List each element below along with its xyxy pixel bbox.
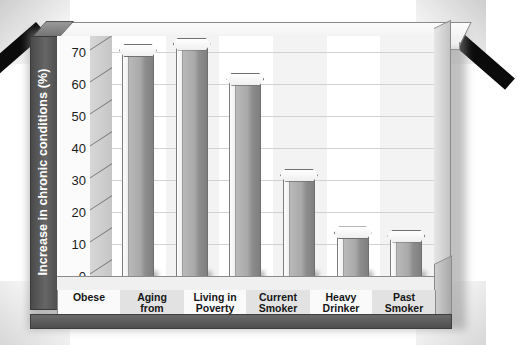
bar-body: [337, 234, 369, 276]
y-axis-tick-column: 010203040506070: [57, 36, 91, 308]
bar-edge: [396, 238, 397, 276]
y-axis-tick-label: 60: [72, 78, 86, 91]
bar[interactable]: [229, 81, 259, 276]
plot-wall-rail: [90, 193, 113, 212]
bar[interactable]: [122, 52, 152, 276]
plot-wall-rail: [90, 65, 113, 84]
category-label-line: Aging: [137, 292, 167, 303]
category-label-line: Living in: [193, 292, 236, 303]
category-label-line: Current: [259, 292, 297, 303]
chart-floor-top: [57, 276, 434, 291]
bar-top-face: [334, 226, 372, 239]
category-label-line: Obese: [73, 292, 105, 303]
bar-body: [229, 81, 261, 276]
bar[interactable]: [176, 46, 206, 276]
y-axis-tick-label: 40: [72, 142, 86, 155]
chart-floor-side: [434, 255, 452, 322]
category-label-line: Smoker: [259, 303, 298, 314]
y-axis-title: Increase in chronic conditions (%): [30, 36, 56, 308]
y-axis-tick-label: 70: [72, 46, 86, 59]
category-label-line: Heavy: [326, 292, 357, 303]
bar-top-face: [226, 73, 264, 86]
plot-wall-rail: [90, 225, 113, 244]
chart-base-plinth: [30, 314, 452, 329]
plot-wall-rail: [90, 129, 113, 148]
bar-slot: [273, 36, 327, 276]
plot-wall-rail: [90, 257, 113, 276]
y-axis-tick-label: 50: [72, 110, 86, 123]
plot-right-wall: [434, 20, 451, 278]
bar-edge: [235, 81, 236, 276]
bar-top-face: [173, 38, 211, 51]
bar-body: [390, 238, 422, 276]
bar[interactable]: [390, 238, 420, 276]
bar-slot: [219, 36, 273, 276]
bar-body: [283, 177, 315, 276]
bar-slot: [327, 36, 381, 276]
bar-slot: [380, 36, 434, 276]
bar-top-face: [387, 230, 425, 243]
bar-top-face: [280, 169, 318, 182]
plot-wall-rail: [90, 97, 113, 116]
bar-top-face: [119, 44, 157, 57]
bar-slot: [166, 36, 220, 276]
y-axis-tick-label: 10: [72, 238, 86, 251]
bar-slot: [112, 36, 166, 276]
bar-edge: [182, 46, 183, 276]
bar-edge: [128, 52, 129, 276]
bar[interactable]: [337, 234, 367, 276]
bar-edge: [343, 234, 344, 276]
bar-body: [122, 52, 154, 276]
category-label-line: Poverty: [196, 303, 235, 314]
plot-left-wall: [90, 36, 113, 308]
category-label-line: Drinker: [323, 303, 360, 314]
plot-wall-rail: [90, 161, 113, 180]
y-axis-tick-label: 30: [72, 174, 86, 187]
bar-chart: Increase in chronic conditions (%) 01020…: [18, 14, 470, 332]
bar-series: [112, 36, 434, 276]
bar-body: [176, 46, 208, 276]
y-axis-tick-label: 20: [72, 206, 86, 219]
bar-edge: [289, 177, 290, 276]
category-label-line: Smoker: [385, 303, 424, 314]
plot-wall-rail: [90, 36, 113, 53]
category-label-line: Past: [393, 292, 415, 303]
bar[interactable]: [283, 177, 313, 276]
